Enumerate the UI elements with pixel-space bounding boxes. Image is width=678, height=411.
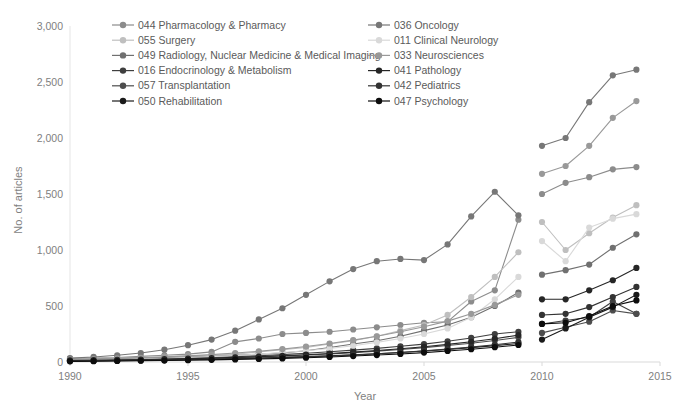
legend-item-047[interactable]: 047 Psychology	[368, 95, 469, 107]
data-point-047	[91, 358, 97, 364]
legend-item-label: 042 Pediatrics	[394, 79, 461, 91]
data-point-033	[327, 340, 333, 346]
data-point-049	[633, 231, 639, 237]
data-point-044	[397, 322, 403, 328]
data-point-047	[492, 344, 498, 350]
data-point-036	[421, 257, 427, 263]
data-point-047	[138, 358, 144, 364]
data-point-047	[67, 358, 73, 364]
data-point-057	[539, 330, 545, 336]
data-point-044	[633, 164, 639, 170]
data-point-041	[492, 336, 498, 342]
x-axis-tick-label: 2015	[648, 370, 672, 382]
data-point-047	[350, 353, 356, 359]
data-point-041	[586, 287, 592, 293]
legend-item-041[interactable]: 041 Pathology	[368, 64, 462, 76]
series-line-011	[542, 214, 636, 261]
legend-marker-dot-icon	[376, 22, 382, 28]
legend-item-055[interactable]: 055 Surgery	[112, 34, 196, 46]
legend-marker-dot-icon	[376, 37, 382, 43]
data-point-047	[445, 348, 451, 354]
data-point-044	[563, 180, 569, 186]
data-point-047	[539, 321, 545, 327]
legend-item-036[interactable]: 036 Oncology	[368, 19, 460, 31]
legend-item-label: 055 Surgery	[138, 34, 196, 46]
chart-figure: 05001,0001,5002,0002,5003,000 1990199520…	[0, 0, 678, 411]
data-point-011	[350, 343, 356, 349]
legend-item-044[interactable]: 044 Pharmacology & Pharmacy	[112, 19, 286, 31]
data-point-042	[586, 304, 592, 310]
data-point-036	[633, 67, 639, 73]
data-point-011	[374, 339, 380, 345]
data-point-036	[515, 212, 521, 218]
legend-marker-dot-icon	[120, 37, 126, 43]
data-point-033	[515, 292, 521, 298]
legend-marker-dot-icon	[120, 83, 126, 89]
data-point-033	[421, 324, 427, 330]
y-axis-tick-group: 05001,0001,5002,0002,5003,000	[37, 20, 63, 368]
data-point-047	[586, 313, 592, 319]
data-point-047	[303, 355, 309, 361]
x-axis-title: Year	[354, 390, 377, 402]
data-point-055	[563, 247, 569, 253]
legend-item-label: 011 Clinical Neurology	[394, 34, 499, 46]
data-point-050	[539, 337, 545, 343]
y-axis-tick-label: 500	[45, 300, 63, 312]
data-point-049	[610, 245, 616, 251]
legend-item-label: 047 Psychology	[394, 95, 469, 107]
data-point-047	[279, 355, 285, 361]
data-point-047	[610, 303, 616, 309]
data-point-036	[586, 99, 592, 105]
legend-item-011[interactable]: 011 Clinical Neurology	[368, 34, 499, 46]
data-point-011	[492, 296, 498, 302]
data-point-033	[256, 348, 262, 354]
data-point-055	[633, 202, 639, 208]
data-point-044	[586, 174, 592, 180]
x-axis-tick-label: 2005	[412, 370, 436, 382]
series-line-044	[542, 167, 636, 194]
data-point-033	[492, 302, 498, 308]
data-point-044	[327, 329, 333, 335]
data-point-041	[563, 296, 569, 302]
legend-marker-dot-icon	[376, 83, 382, 89]
chart-legend: 044 Pharmacology & Pharmacy055 Surgery04…	[112, 19, 499, 107]
data-point-033	[303, 343, 309, 349]
data-point-036	[492, 189, 498, 195]
data-point-011	[539, 238, 545, 244]
legend-item-050[interactable]: 050 Rehabilitation	[112, 95, 222, 107]
legend-item-033[interactable]: 033 Neurosciences	[368, 49, 484, 61]
data-point-036	[256, 316, 262, 322]
legend-item-057[interactable]: 057 Transplantation	[112, 79, 230, 91]
data-point-055	[539, 219, 545, 225]
data-point-033	[633, 98, 639, 104]
data-point-011	[515, 274, 521, 280]
data-point-047	[468, 346, 474, 352]
data-point-033	[397, 329, 403, 335]
data-point-044	[232, 339, 238, 345]
data-point-042	[633, 284, 639, 290]
x-axis-tick-group: 199019952000200520102015	[58, 362, 672, 382]
series-line-033	[542, 101, 636, 174]
series-line-049	[542, 234, 636, 274]
y-axis-tick-label: 2,000	[37, 132, 63, 144]
legend-item-042[interactable]: 042 Pediatrics	[368, 79, 461, 91]
data-point-011	[563, 258, 569, 264]
data-point-036	[445, 241, 451, 247]
legend-item-016[interactable]: 016 Endocrinology & Metabolism	[112, 64, 292, 76]
data-point-047	[114, 358, 120, 364]
data-point-050	[563, 325, 569, 331]
data-point-033	[586, 143, 592, 149]
data-point-055	[515, 249, 521, 255]
y-axis-tick-label: 3,000	[37, 20, 63, 32]
data-point-011	[397, 335, 403, 341]
legend-item-049[interactable]: 049 Radiology, Nuclear Medicine & Medica…	[112, 49, 381, 61]
data-point-042	[539, 312, 545, 318]
legend-item-label: 050 Rehabilitation	[138, 95, 222, 107]
data-point-011	[633, 211, 639, 217]
legend-item-label: 016 Endocrinology & Metabolism	[138, 64, 292, 76]
data-point-041	[610, 277, 616, 283]
series-line-041	[542, 268, 636, 299]
data-point-047	[161, 357, 167, 363]
legend-marker-dot-icon	[120, 52, 126, 58]
data-point-047	[374, 352, 380, 358]
